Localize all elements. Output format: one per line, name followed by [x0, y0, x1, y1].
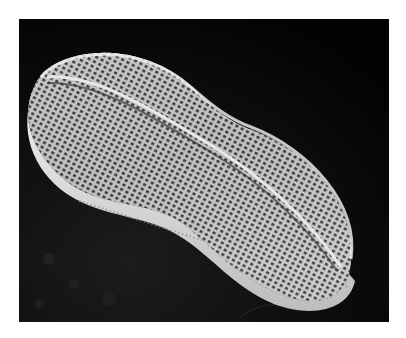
diatom-illustration	[19, 19, 389, 322]
cropped-caption-text	[0, 0, 140, 4]
sem-photograph	[19, 19, 389, 322]
